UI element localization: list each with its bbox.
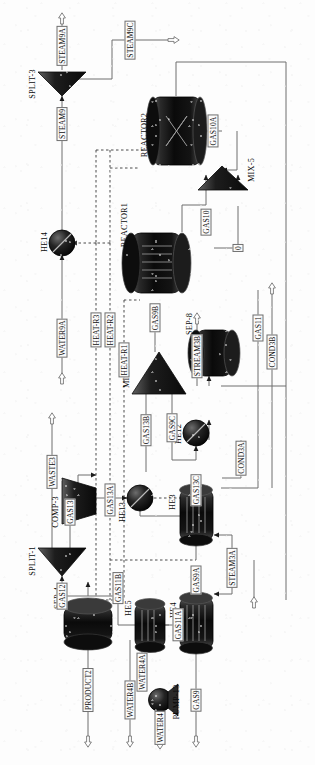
block-mix7[interactable] bbox=[132, 352, 186, 394]
stream-tag-gas13[interactable]: GAS13 bbox=[65, 498, 76, 525]
block-reactor2[interactable] bbox=[146, 97, 207, 165]
block-reactor1[interactable] bbox=[122, 233, 191, 293]
block-split1[interactable] bbox=[38, 548, 86, 576]
block-label-sep8: SEP-8 bbox=[185, 313, 194, 335]
stream-tag-gas9[interactable]: GAS9 bbox=[191, 688, 202, 711]
stream-tag-steam9c[interactable]: STEAM9C bbox=[125, 20, 136, 59]
stream-tag-product2[interactable]: PRODUCT2 bbox=[83, 668, 94, 712]
stream-tag-heatr3[interactable]: HEAT-R3 bbox=[91, 313, 102, 348]
stream-tag-gas13a[interactable]: GAS13A bbox=[105, 484, 116, 517]
block-label-split1: SPLIT-1 bbox=[28, 546, 37, 576]
stream-tag-cond3a[interactable]: COND3A bbox=[236, 440, 247, 475]
stream-tag-gas10[interactable]: GAS10 bbox=[201, 208, 212, 235]
block-label-pump13: PUMP-13 bbox=[172, 684, 181, 719]
block-he5[interactable] bbox=[135, 599, 165, 653]
block-split3[interactable] bbox=[38, 72, 86, 96]
stream-tag-heatr1[interactable]: HEAT-R1 bbox=[119, 343, 130, 378]
block-he14[interactable] bbox=[49, 230, 75, 256]
stream-tag-cond3b[interactable]: COND3B bbox=[267, 335, 278, 370]
stream-tag-gas11a[interactable]: GAS11A bbox=[173, 609, 184, 642]
stream-tag-waste3[interactable]: WASTE3 bbox=[47, 455, 58, 489]
block-label-he13: HE13 bbox=[118, 502, 127, 522]
stream-tag-gas10a[interactable]: GAS10A bbox=[208, 115, 219, 148]
block-he12[interactable] bbox=[183, 420, 209, 446]
block-label-reactor1: REACTOR1 bbox=[120, 203, 129, 247]
block-label-reactor2: REACTOR2 bbox=[140, 113, 149, 157]
block-label-he3: HE3 bbox=[168, 494, 177, 510]
stream-tag-gas9a[interactable]: GAS9A bbox=[191, 566, 202, 595]
stream-tag-gas11[interactable]: GAS11 bbox=[253, 314, 264, 341]
block-he4[interactable] bbox=[180, 592, 214, 654]
stream-tag-gas11b[interactable]: GAS11B bbox=[113, 572, 124, 604]
stream-tag-gas12[interactable]: GAS12 bbox=[57, 582, 68, 609]
stream-tag-water4b[interactable]: WATER4B bbox=[125, 681, 136, 720]
stream-tag-steam9a[interactable]: STEAM9A bbox=[57, 26, 68, 66]
stream-tag-gas13c[interactable]: GAS13C bbox=[191, 474, 202, 506]
block-label-mix5: MIX-5 bbox=[247, 158, 256, 182]
stream-tag-gas9b[interactable]: GAS9B bbox=[150, 304, 161, 333]
block-sep4[interactable] bbox=[64, 598, 112, 650]
block-he13[interactable] bbox=[127, 485, 153, 511]
stream-tag-water9a[interactable]: WATER9A bbox=[57, 318, 68, 357]
stream-tag-water4[interactable]: WATER4 bbox=[155, 711, 166, 745]
flowsheet-canvas: SPLIT-3 REACTOR2 REACTOR1 MIX-5 HE14 MIX… bbox=[0, 0, 315, 765]
block-label-comp3: COMP-3 bbox=[51, 496, 60, 528]
stream-tag-water4a[interactable]: WATER4A bbox=[137, 652, 148, 691]
block-label-he5: HE5 bbox=[124, 600, 133, 616]
stream-tag-zero[interactable]: 0 bbox=[233, 244, 244, 252]
stream-tag-steam3a[interactable]: STEAM3A bbox=[227, 548, 238, 588]
stream-tag-gas13b[interactable]: GAS13B bbox=[141, 414, 152, 446]
stream-tag-heatr2[interactable]: HEAT-R2 bbox=[105, 313, 116, 348]
stream-tag-stream3b[interactable]: STREAM3B bbox=[192, 334, 203, 378]
stream-tag-steam9[interactable]: STEAM9 bbox=[57, 107, 68, 141]
block-label-split3: SPLIT-3 bbox=[28, 69, 37, 99]
flowsheet-graphics bbox=[0, 0, 315, 765]
block-label-he14: HE14 bbox=[40, 232, 49, 252]
stream-tag-gas9c[interactable]: GAS9C bbox=[167, 414, 178, 443]
